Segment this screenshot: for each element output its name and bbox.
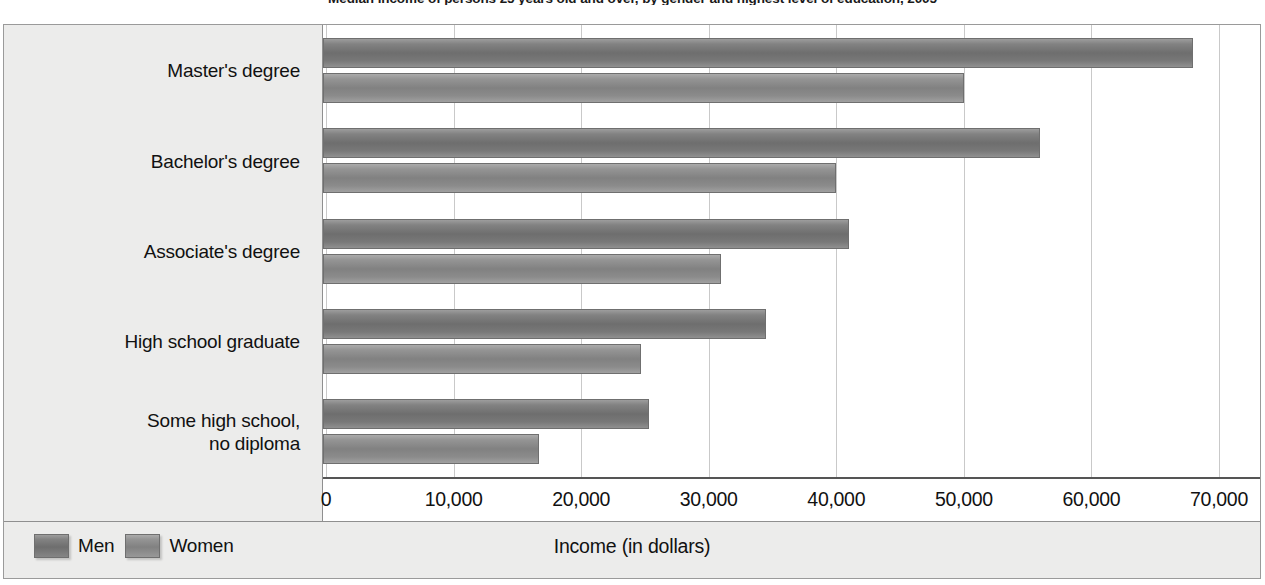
chart-footer: MenWomen Income (in dollars) bbox=[4, 521, 1260, 578]
bar-men bbox=[323, 38, 1193, 68]
x-axis-line bbox=[323, 477, 1260, 479]
x-axis-title: Income (in dollars) bbox=[4, 535, 1260, 558]
x-tick-label: 50,000 bbox=[935, 488, 993, 511]
bar-men bbox=[323, 309, 766, 339]
category-label: Some high school, no diploma bbox=[147, 409, 300, 455]
chart-title: Median income of persons 25 years old an… bbox=[0, 0, 1265, 5]
chart-frame: Master's degreeBachelor's degreeAssociat… bbox=[3, 24, 1261, 579]
bars-layer bbox=[323, 25, 1260, 477]
bar-women bbox=[323, 254, 721, 284]
bar-men bbox=[323, 219, 849, 249]
bar-women bbox=[323, 73, 964, 103]
x-tick-label: 30,000 bbox=[680, 488, 738, 511]
category-label: High school graduate bbox=[124, 330, 300, 353]
bar-chart-figure: Median income of persons 25 years old an… bbox=[0, 0, 1265, 585]
bar-women bbox=[323, 434, 539, 464]
bar-women bbox=[323, 344, 641, 374]
category-label-panel: Master's degreeBachelor's degreeAssociat… bbox=[4, 25, 323, 578]
x-tick-label: 40,000 bbox=[807, 488, 865, 511]
category-label: Bachelor's degree bbox=[151, 149, 300, 172]
x-tick-label: 0 bbox=[321, 488, 332, 511]
x-tick-label: 10,000 bbox=[425, 488, 483, 511]
bar-women bbox=[323, 163, 836, 193]
bar-men bbox=[323, 128, 1040, 158]
x-tick-label: 70,000 bbox=[1190, 488, 1248, 511]
plot-area bbox=[323, 25, 1260, 477]
category-label: Associate's degree bbox=[144, 240, 300, 263]
x-tick-label: 20,000 bbox=[552, 488, 610, 511]
category-label: Master's degree bbox=[167, 59, 300, 82]
x-tick-label: 60,000 bbox=[1063, 488, 1121, 511]
bar-men bbox=[323, 399, 649, 429]
